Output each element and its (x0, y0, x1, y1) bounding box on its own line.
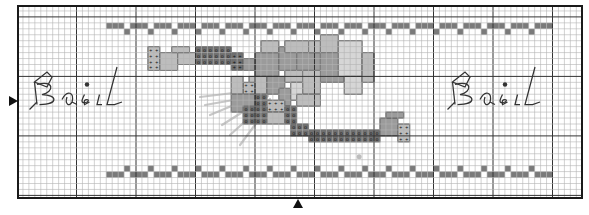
i-dot (503, 82, 508, 87)
backstitch-stroke (500, 95, 508, 105)
top-band-stitch (112, 23, 118, 29)
top-band-stitch (523, 23, 529, 29)
top-band-stitch (184, 23, 190, 29)
bottom-band-stitch (380, 172, 386, 178)
stitch-symbol: + (274, 106, 277, 112)
backstitch-stroke (107, 67, 122, 105)
stitch-symbol: o (203, 59, 206, 65)
bottom-band-stitch (320, 172, 326, 178)
top-band-stitch (481, 29, 487, 35)
bottom-band-stitch (350, 172, 356, 178)
stitch-symbol: + (280, 106, 283, 112)
top-band-stitch (416, 23, 422, 29)
bottom-band-stitch (326, 172, 332, 178)
top-band-stitch (166, 23, 172, 29)
bottom-band-stitch (148, 166, 154, 172)
top-band-stitch (326, 23, 332, 29)
top-band-stitch (517, 23, 523, 29)
top-band-stitch (463, 23, 469, 29)
bottom-band-stitch (196, 166, 202, 172)
top-band-stitch (487, 23, 493, 29)
top-band-stitch (547, 23, 553, 29)
top-band-stitch (219, 29, 225, 35)
stitch-symbol: o (370, 136, 373, 142)
top-band-stitch (374, 23, 380, 29)
top-band-stitch (172, 29, 178, 35)
top-band-stitch (332, 23, 338, 29)
bottom-band-stitch (297, 172, 303, 178)
top-band-stitch (511, 23, 517, 29)
bottom-band-stitch (332, 172, 338, 178)
backstitch-stroke (525, 67, 540, 105)
top-band-stitch (439, 23, 445, 29)
stitch-symbol: o (245, 118, 248, 124)
bottom-band-stitch (249, 172, 255, 178)
bottom-band-stitch (338, 166, 344, 172)
bottom-band-stitch (344, 172, 350, 178)
bottom-band-stitch (481, 166, 487, 172)
bottom-band-stitch (457, 166, 463, 172)
backstitch-stroke (480, 93, 490, 104)
top-band-stitch (434, 29, 440, 35)
stitch-symbol: o (358, 136, 361, 142)
stitch-symbol: o (209, 59, 212, 65)
bottom-band-stitch (106, 172, 112, 178)
bottom-band-stitch (309, 172, 315, 178)
bottom-band-stitch (410, 166, 416, 172)
pattern-grid: ++++oooo++++++++oooooooooooooooooo++++++… (17, 5, 583, 199)
bottom-band-stitch (279, 172, 285, 178)
bottom-band-stitch (303, 172, 309, 178)
bottom-band-stitch (493, 172, 499, 178)
top-band-stitch (201, 23, 207, 29)
bottom-band-stitch (154, 172, 160, 178)
top-band-stitch (291, 29, 297, 35)
bottom-band-stitch (255, 172, 261, 178)
top-band-stitch (255, 23, 261, 29)
top-band-stitch (243, 29, 249, 35)
center-column-arrow-icon (293, 199, 303, 208)
top-band-stitch (273, 23, 279, 29)
stitch-symbol: + (399, 136, 402, 142)
bottom-band-stitch (416, 172, 422, 178)
top-band-stitch (338, 29, 344, 35)
stitch-symbol: o (340, 136, 343, 142)
ribbon-top-block (172, 47, 190, 53)
backstitch-stroke (515, 95, 520, 105)
bottom-band-stitch (499, 172, 505, 178)
bottom-band-stitch (219, 166, 225, 172)
bottom-band-stitch (487, 172, 493, 178)
ribbon-bottom-block (380, 118, 398, 136)
bottom-band-stitch (273, 172, 279, 178)
bottom-band-stitch (130, 172, 136, 178)
top-band-stitch (356, 23, 362, 29)
bottom-band-stitch (285, 172, 291, 178)
bottom-band-stitch (267, 166, 273, 172)
top-band-stitch (475, 23, 481, 29)
bottom-band-stitch (362, 166, 368, 172)
bottom-band-stitch (392, 172, 398, 178)
top-band-stitch (231, 23, 237, 29)
top-band-stitch (142, 23, 148, 29)
top-band-stitch (362, 29, 368, 35)
top-band-stitch (410, 29, 416, 35)
stitch-symbol: o (316, 136, 319, 142)
stitch-symbol: o (215, 59, 218, 65)
bottom-band-stitch (172, 166, 178, 172)
top-band-stitch (178, 23, 184, 29)
stitch-symbol: + (245, 88, 248, 94)
bottom-band-stitch (243, 166, 249, 172)
center-row-arrow-icon (9, 96, 18, 106)
ribbon-top-block (160, 53, 178, 71)
bottom-band-stitch (118, 172, 124, 178)
stitch-symbol: o (304, 130, 307, 136)
top-band-stitch (451, 23, 457, 29)
top-band-stitch (505, 29, 511, 35)
stitch-symbol: o (262, 118, 265, 124)
leaves-block (320, 35, 338, 53)
stitch-symbol: o (322, 136, 325, 142)
bottom-band-stitch (261, 172, 267, 178)
stitch-symbol: o (221, 59, 224, 65)
top-band-stitch (225, 23, 231, 29)
top-band-stitch (160, 23, 166, 29)
top-band-stitch (190, 23, 196, 29)
